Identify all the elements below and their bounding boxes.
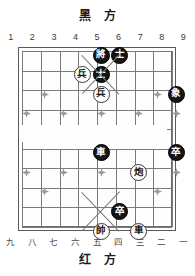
piece-glyph: 兵 bbox=[77, 69, 87, 79]
grid-vline bbox=[172, 51, 173, 227]
coord-top-6: 6 bbox=[108, 31, 130, 43]
coord-bottom-6: 四 bbox=[108, 236, 130, 248]
coord-top-2: 2 bbox=[22, 31, 44, 43]
coord-bottom-5: 五 bbox=[86, 236, 108, 248]
coord-bottom-3: 七 bbox=[43, 236, 65, 248]
coord-top-9: 9 bbox=[173, 31, 195, 43]
river-gap bbox=[19, 125, 167, 143]
piece-glyph: 兵 bbox=[96, 89, 106, 99]
coord-top-1: 1 bbox=[0, 31, 22, 43]
coord-bottom-1: 九 bbox=[0, 236, 22, 248]
coord-bottom-9: 一 bbox=[173, 236, 195, 248]
piece-glyph: 車 bbox=[96, 148, 106, 158]
coord-top-7: 7 bbox=[129, 31, 151, 43]
black-elephant[interactable]: 象 bbox=[168, 86, 185, 103]
piece-glyph: 象 bbox=[171, 89, 181, 99]
grid-hline bbox=[22, 188, 172, 189]
piece-glyph: 將 bbox=[96, 50, 106, 60]
coord-bottom-7: 三 bbox=[129, 236, 151, 248]
xiangqi-board[interactable]: 將士兵士兵象車卒炮卒帥車 bbox=[18, 47, 176, 231]
red-soldier-center[interactable]: 兵 bbox=[93, 86, 110, 103]
red-soldier-upper[interactable]: 兵 bbox=[74, 66, 91, 83]
coord-bottom-8: 二 bbox=[151, 236, 173, 248]
grid-hline bbox=[22, 168, 172, 169]
piece-glyph: 卒 bbox=[115, 206, 125, 216]
piece-glyph: 炮 bbox=[134, 167, 144, 177]
coord-bottom-2: 八 bbox=[22, 236, 44, 248]
red-side-caption: 红 方 bbox=[0, 253, 194, 267]
coord-top-8: 8 bbox=[151, 31, 173, 43]
file-coordinates-bottom: 九八七六五四三二一 bbox=[0, 236, 194, 248]
coord-top-3: 3 bbox=[43, 31, 65, 43]
piece-glyph: 車 bbox=[134, 226, 144, 236]
red-cannon[interactable]: 炮 bbox=[130, 164, 147, 181]
coord-top-4: 4 bbox=[65, 31, 87, 43]
black-chariot[interactable]: 車 bbox=[93, 144, 110, 161]
file-coordinates-top: 123456789 bbox=[0, 31, 194, 43]
piece-glyph: 卒 bbox=[171, 148, 181, 158]
coord-bottom-4: 六 bbox=[65, 236, 87, 248]
black-soldier-right[interactable]: 卒 bbox=[168, 144, 185, 161]
piece-glyph: 帥 bbox=[96, 226, 106, 236]
grid-hline bbox=[22, 110, 172, 111]
coord-top-5: 5 bbox=[86, 31, 108, 43]
black-side-caption: 黑 方 bbox=[0, 9, 194, 23]
black-general[interactable]: 將 bbox=[93, 47, 110, 64]
